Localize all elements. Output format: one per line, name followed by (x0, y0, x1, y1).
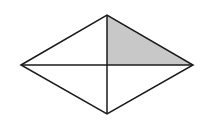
diagram-canvas (0, 0, 207, 120)
rhombus-diagram (0, 0, 207, 120)
